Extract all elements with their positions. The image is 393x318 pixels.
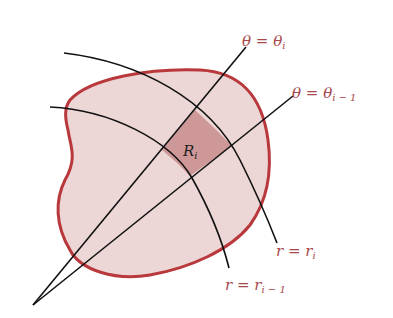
label-r-i-minus-1: r = ri − 1 bbox=[225, 276, 286, 295]
label-r-i: r = ri bbox=[276, 242, 316, 261]
polar-region-diagram: θ = θi θ = θi − 1 r = ri r = ri − 1 Ri bbox=[0, 0, 393, 318]
label-theta-i: θ = θi bbox=[242, 32, 285, 51]
region-boundary bbox=[58, 70, 269, 277]
label-theta-i-minus-1: θ = θi − 1 bbox=[292, 84, 356, 103]
